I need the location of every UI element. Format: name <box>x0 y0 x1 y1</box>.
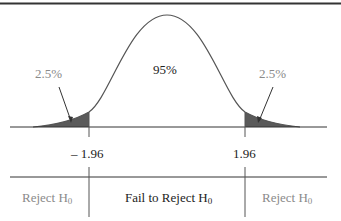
left-tail-pct: 2.5% <box>35 66 62 82</box>
reject-right-label: Reject H0 <box>262 190 312 206</box>
fail-to-reject-label: Fail to Reject H0 <box>125 190 212 206</box>
right-arrow <box>259 87 273 121</box>
reject-left-label: Reject H0 <box>22 190 72 206</box>
left-critical-value: – 1.96 <box>71 146 104 162</box>
right-critical-value: 1.96 <box>233 146 256 162</box>
center-pct: 95% <box>153 62 177 78</box>
normal-curve-figure <box>0 0 341 221</box>
left-tail-region <box>33 112 89 127</box>
left-arrow <box>59 87 71 121</box>
right-tail-region <box>245 112 300 127</box>
right-tail-pct: 2.5% <box>259 66 286 82</box>
